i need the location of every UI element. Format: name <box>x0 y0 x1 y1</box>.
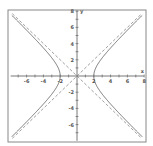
x-tick-label: 4 <box>109 78 113 84</box>
y-tick-label: 6 <box>71 24 75 30</box>
x-tick-label: 6 <box>126 78 130 84</box>
y-tick-label: 8 <box>71 8 75 14</box>
hyperbola-chart: -6-4-224688642-2-4-6yx <box>0 0 153 146</box>
y-tick-label: 4 <box>71 41 75 47</box>
x-tick-label: 8 <box>142 78 146 84</box>
y-tick-label: -2 <box>68 89 74 95</box>
x-tick-label: 2 <box>92 78 96 84</box>
x-tick-label: -2 <box>57 78 63 84</box>
y-tick-label: -6 <box>68 122 74 128</box>
y-tick-label: -4 <box>68 105 74 111</box>
y-tick-label: 2 <box>71 57 75 63</box>
x-tick-label: -4 <box>41 78 47 84</box>
x-tick-label: -6 <box>24 78 30 84</box>
